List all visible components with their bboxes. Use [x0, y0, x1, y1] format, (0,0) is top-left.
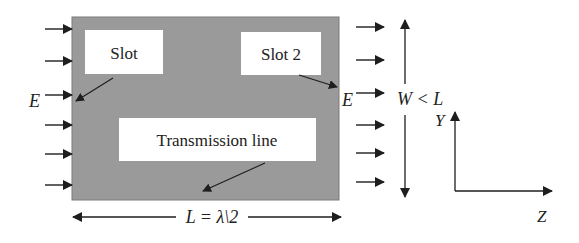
slot2-label: Slot 2: [261, 45, 301, 64]
outgoing-field-arrows-right: [356, 27, 384, 182]
width-label: W < L: [397, 89, 443, 109]
slot1-box: Slot: [85, 30, 163, 74]
z-axis-label: Z: [537, 207, 547, 226]
length-label: L = λ\2: [185, 207, 239, 227]
slot1-label: Slot: [110, 44, 138, 63]
transmission-line-label: Transmission line: [157, 131, 278, 150]
y-axis-label: Y: [435, 111, 446, 130]
antenna-diagram: Slot Slot 2 Transmission line E E W < L: [0, 0, 579, 243]
coordinate-axes: [455, 112, 552, 191]
incident-field-arrows-left: [45, 29, 72, 185]
slot2-box: Slot 2: [241, 32, 321, 75]
transmission-line-box: Transmission line: [119, 118, 316, 161]
e-field-label-right: E: [341, 90, 353, 110]
e-field-label-left: E: [28, 91, 40, 111]
